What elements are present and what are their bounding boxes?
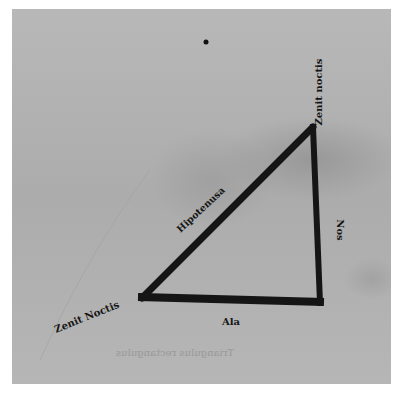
hypotenuse-line [142, 127, 313, 298]
apex-label: Zenit noctis [313, 58, 324, 125]
vertical-leg-label: Nos [335, 219, 346, 241]
triangle-diagram: Zenit noctis Zenit Noctis Hipotenusa Nos… [0, 0, 400, 396]
hypotenuse-label: Hipotenusa [174, 185, 226, 235]
ink-dot [204, 40, 209, 45]
show-through-text: Triangulus rectangulus [116, 347, 234, 358]
left-vertex-label: Zenit Noctis [53, 299, 121, 335]
base-line [142, 297, 320, 302]
vertical-leg-line [313, 127, 320, 303]
base-label: Ala [221, 316, 241, 327]
